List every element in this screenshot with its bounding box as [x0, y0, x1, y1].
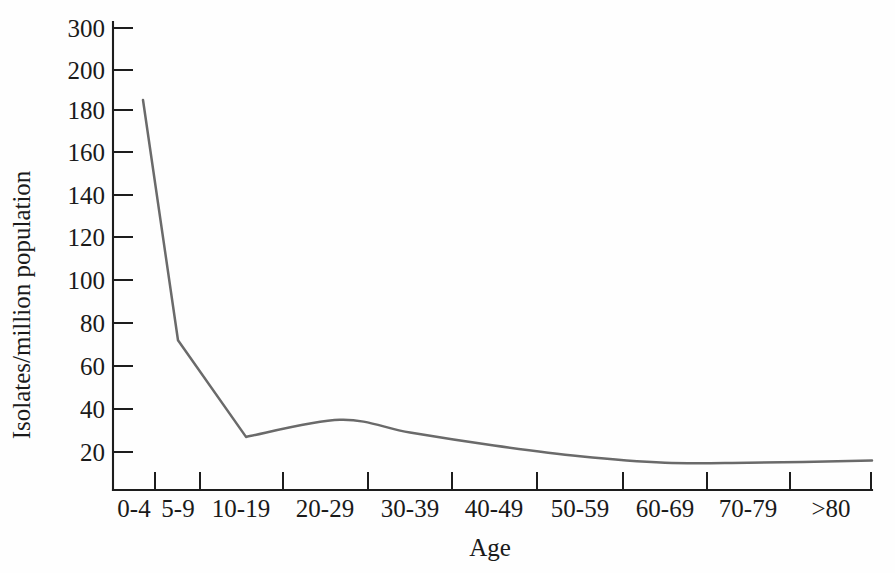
x-tick-label: 30-39	[381, 495, 439, 522]
y-tick-marks	[113, 28, 133, 452]
y-tick-label: 200	[68, 57, 106, 84]
x-tick-label: 10-19	[212, 495, 270, 522]
y-tick-label: 20	[80, 439, 105, 466]
x-tick-label: 5-9	[161, 495, 194, 522]
figure-container: Isolates/million population Age 300 200 …	[0, 0, 895, 573]
x-tick-label: 0-4	[117, 495, 151, 522]
x-tick-label: >80	[811, 495, 850, 522]
y-tick-label: 140	[68, 182, 106, 209]
x-tick-label: 70-79	[719, 495, 777, 522]
y-tick-label: 100	[68, 267, 106, 294]
x-tick-marks	[155, 472, 871, 490]
x-tick-label: 50-59	[551, 495, 609, 522]
x-tick-label: 20-29	[296, 495, 354, 522]
x-axis-title: Age	[469, 534, 511, 561]
line-chart: Isolates/million population Age 300 200 …	[0, 0, 895, 573]
y-tick-label: 80	[80, 310, 105, 337]
y-axis-title: Isolates/million population	[8, 170, 35, 439]
y-tick-label: 180	[68, 97, 106, 124]
y-tick-label: 60	[80, 353, 105, 380]
y-tick-label: 160	[68, 139, 106, 166]
data-line-series	[143, 100, 872, 463]
y-tick-labels: 300 200 180 160 140 120 100 80 60 40 20	[68, 15, 106, 466]
y-tick-label: 300	[68, 15, 106, 42]
y-tick-label: 40	[80, 396, 105, 423]
x-tick-labels: 0-4 5-9 10-19 20-29 30-39 40-49 50-59 60…	[117, 495, 850, 522]
y-tick-label: 120	[68, 224, 106, 251]
x-tick-label: 60-69	[636, 495, 694, 522]
x-tick-label: 40-49	[465, 495, 523, 522]
